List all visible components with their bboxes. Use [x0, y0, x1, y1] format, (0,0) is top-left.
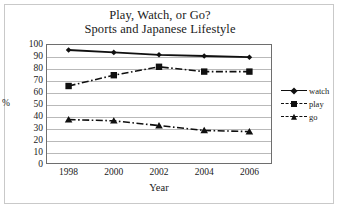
y-tick-label: 40 — [17, 112, 43, 122]
x-axis-ticks: 19982000200220042006 — [46, 167, 272, 179]
data-point-watch — [156, 52, 162, 58]
x-tick-label: 1998 — [48, 167, 90, 177]
legend-item-play[interactable]: play — [281, 97, 335, 110]
legend-label: play — [307, 99, 324, 109]
legend-key-play — [281, 98, 307, 109]
data-point-play — [111, 72, 117, 78]
chart-title: Play, Watch, or Go? — [40, 8, 280, 22]
y-axis-ticks: 1009080706050403020100 — [14, 44, 43, 164]
data-point-play — [65, 83, 71, 89]
x-tick-label: 2006 — [228, 167, 270, 177]
data-point-watch — [66, 47, 72, 53]
data-point-play — [246, 68, 252, 74]
x-tick-label: 2002 — [138, 167, 180, 177]
legend-item-go[interactable]: go — [281, 110, 335, 123]
legend-diamond-marker-icon — [290, 87, 297, 94]
x-tick-label: 2000 — [93, 167, 135, 177]
y-axis-label: % — [2, 98, 10, 108]
chart-subtitle: Sports and Japanese Lifestyle — [40, 22, 280, 36]
x-tick-label: 2004 — [183, 167, 225, 177]
y-tick-label: 90 — [17, 52, 43, 62]
legend-label: go — [307, 112, 318, 122]
chart-title-block: Play, Watch, or Go? Sports and Japanese … — [40, 8, 280, 36]
series-layer — [46, 44, 272, 164]
chart-legend: watchplaygo — [281, 84, 335, 123]
y-tick-label: 20 — [17, 136, 43, 146]
y-tick-label: 100 — [17, 40, 43, 50]
y-tick-label: 80 — [17, 64, 43, 74]
data-point-watch — [201, 53, 207, 59]
legend-key-go — [281, 111, 307, 122]
y-tick-label: 30 — [17, 124, 43, 134]
data-point-play — [201, 68, 207, 74]
legend-square-marker-icon — [291, 101, 297, 107]
y-tick-label: 10 — [17, 148, 43, 158]
legend-label: watch — [307, 86, 329, 96]
y-tick-label: 50 — [17, 100, 43, 110]
legend-triangle-marker-icon — [291, 113, 297, 119]
legend-item-watch[interactable]: watch — [281, 84, 335, 97]
data-point-watch — [247, 54, 253, 60]
y-tick-label: 60 — [17, 88, 43, 98]
line-chart: Play, Watch, or Go? Sports and Japanese … — [0, 0, 339, 209]
y-tick-label: 70 — [17, 76, 43, 86]
y-tick-label: 0 — [17, 160, 43, 170]
data-point-play — [156, 64, 162, 70]
data-point-watch — [111, 50, 117, 56]
chart-screenshot: Play, Watch, or Go? Sports and Japanese … — [0, 0, 339, 209]
legend-key-watch — [281, 85, 307, 96]
x-axis-label: Year — [46, 182, 272, 193]
